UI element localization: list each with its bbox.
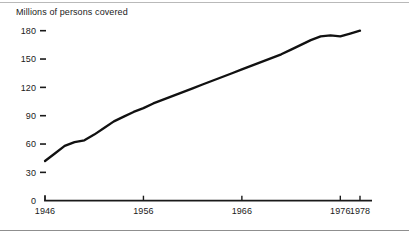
x-tick-label: 1946 [35, 206, 55, 216]
x-axis-tick-labels: 19461956196619761978 [35, 206, 370, 216]
y-tick-label: 30 [26, 168, 36, 178]
y-tick-label: 60 [26, 139, 36, 149]
chart-figure: Millions of persons covered 030609012015… [0, 0, 409, 235]
x-tick-label: 1956 [133, 206, 153, 216]
x-tick-label: 1978 [350, 206, 370, 216]
data-series-line [45, 31, 360, 161]
y-axis-tick-labels: 0306090120150180 [21, 26, 36, 206]
x-tick-label: 1976 [330, 206, 350, 216]
y-axis-tick-marks [40, 31, 46, 173]
y-tick-label: 120 [21, 83, 36, 93]
x-tick-label: 1966 [232, 206, 252, 216]
line-chart-plot: 0306090120150180 19461956196619761978 [0, 0, 409, 235]
y-tick-label: 0 [31, 196, 36, 206]
x-axis [44, 195, 372, 201]
y-tick-label: 150 [21, 54, 36, 64]
y-tick-label: 90 [26, 111, 36, 121]
y-tick-label: 180 [21, 26, 36, 36]
